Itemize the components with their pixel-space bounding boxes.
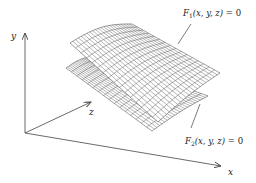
- f2-args: (x, y, z): [195, 136, 225, 146]
- z-axis-label: z: [89, 108, 94, 117]
- surface-label-f1: F1(x, y, z) = 0: [183, 9, 241, 19]
- surface-label-f2: F2(x, y, z) = 0: [185, 137, 243, 147]
- f1-equals-zero: = 0: [223, 8, 241, 18]
- x-axis-label: x: [228, 168, 233, 177]
- leader-line-f2: [191, 104, 200, 128]
- f2-equals-zero: = 0: [225, 136, 243, 146]
- y-axis-label: y: [11, 32, 16, 41]
- z-axis: [25, 102, 91, 133]
- leader-line-f1: [178, 24, 191, 44]
- f1-args: (x, y, z): [193, 8, 223, 18]
- diagram-canvas: [0, 0, 256, 183]
